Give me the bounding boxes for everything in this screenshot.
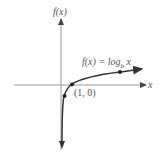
function-label-prefix: f(x) = log [82,56,120,67]
point-quarter [63,94,67,98]
log-curve [62,69,142,143]
point-label-one-zero: (1, 0) [74,88,96,98]
function-label: f(x) = logb x [82,57,131,70]
curve-down-arrow-icon [59,141,65,149]
point-upper [118,70,122,74]
log-function-graph: f(x) x f(x) = logb x (1, 0) [0,0,160,159]
point-one-zero [70,83,74,87]
x-axis-label: x [148,80,152,90]
y-axis-label: f(x) [53,7,67,17]
graph-canvas [0,0,160,159]
function-label-suffix: x [124,56,131,67]
